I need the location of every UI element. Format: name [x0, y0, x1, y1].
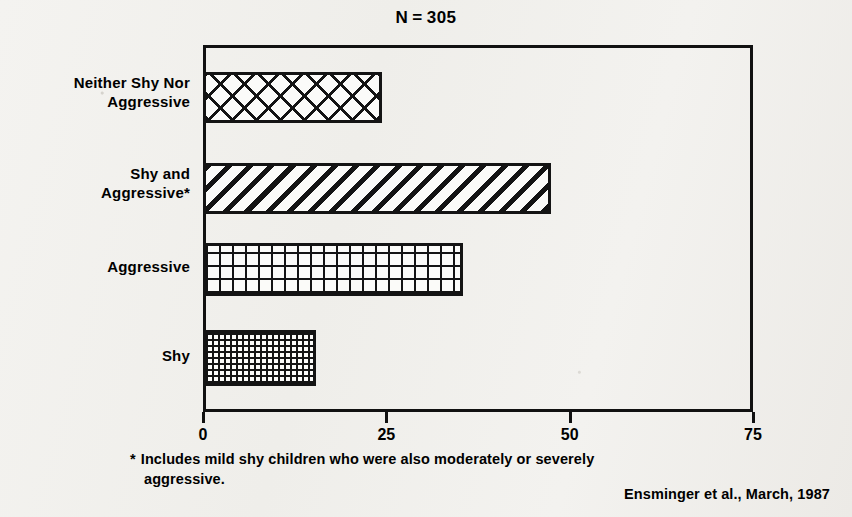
chart-title: N=305 [0, 8, 852, 28]
category-label-aggressive: Aggressive [107, 258, 190, 277]
category-label-line1: Neither Shy Nor [74, 74, 190, 91]
x-axis: 0 25 50 75 [203, 412, 753, 413]
category-label-line1: Shy and [130, 165, 190, 182]
category-label-line1: Shy [162, 347, 190, 364]
chart-title-prefix: N [395, 8, 408, 27]
footnote: *Includes mild shy children who were als… [130, 450, 730, 489]
x-axis-tick [752, 412, 755, 423]
chart-title-value: 305 [427, 8, 457, 27]
category-label-neither-shy-nor-aggressive: Neither Shy NorAggressive [74, 74, 190, 112]
x-axis-tick [569, 412, 572, 423]
footnote-marker: * [130, 451, 136, 467]
bar-chart: N=305 Neither Shy NorAggressive Shy andA… [0, 0, 852, 517]
chart-title-operator: = [408, 8, 426, 27]
attribution: Ensminger et al., March, 1987 [624, 486, 830, 502]
category-label-line1: Aggressive [107, 258, 190, 275]
bar-aggressive[interactable] [203, 243, 463, 296]
bar-shy[interactable] [203, 330, 316, 386]
bar-neither-shy-nor-aggressive[interactable] [203, 72, 382, 123]
x-axis-tick-label: 0 [199, 426, 208, 444]
category-label-line2: Aggressive* [101, 184, 190, 201]
footnote-line1: Includes mild shy children who were also… [141, 451, 595, 467]
x-axis-tick [385, 412, 388, 423]
category-label-shy-and-aggressive: Shy andAggressive* [101, 165, 190, 203]
category-label-shy: Shy [162, 347, 190, 366]
x-axis-tick [202, 412, 205, 423]
category-label-line2: Aggressive [107, 93, 190, 110]
bar-shy-and-aggressive[interactable] [203, 163, 551, 214]
x-axis-tick-label: 75 [744, 426, 762, 444]
x-axis-tick-label: 50 [561, 426, 579, 444]
x-axis-tick-label: 25 [377, 426, 395, 444]
